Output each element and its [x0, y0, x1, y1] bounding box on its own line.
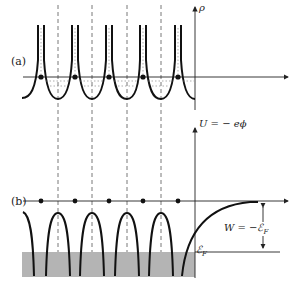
atom-dot [72, 74, 77, 79]
charge-density-curve [22, 25, 195, 99]
atom-dot [175, 74, 180, 79]
atom-dot [39, 199, 44, 204]
atom-dot [106, 74, 111, 79]
panel-b [22, 128, 288, 278]
fermi-energy-label: ℰF [196, 244, 207, 258]
fermi-sea-shading [22, 252, 195, 277]
atom-dot [38, 74, 43, 79]
atom-dot [141, 199, 146, 204]
figure-canvas [0, 0, 298, 292]
panel-b-label: (b) [11, 195, 27, 208]
panel-a [22, 7, 288, 110]
atom-dot [140, 74, 145, 79]
atom-dot [73, 199, 78, 204]
rho-axis-label: ρ [199, 2, 205, 13]
panel-a-label: (a) [11, 55, 26, 68]
potential-axis-label: U = − eϕ [199, 118, 246, 129]
work-function-label: W = −ℰF [224, 222, 268, 236]
atom-dot [107, 199, 112, 204]
atom-dot [176, 199, 181, 204]
